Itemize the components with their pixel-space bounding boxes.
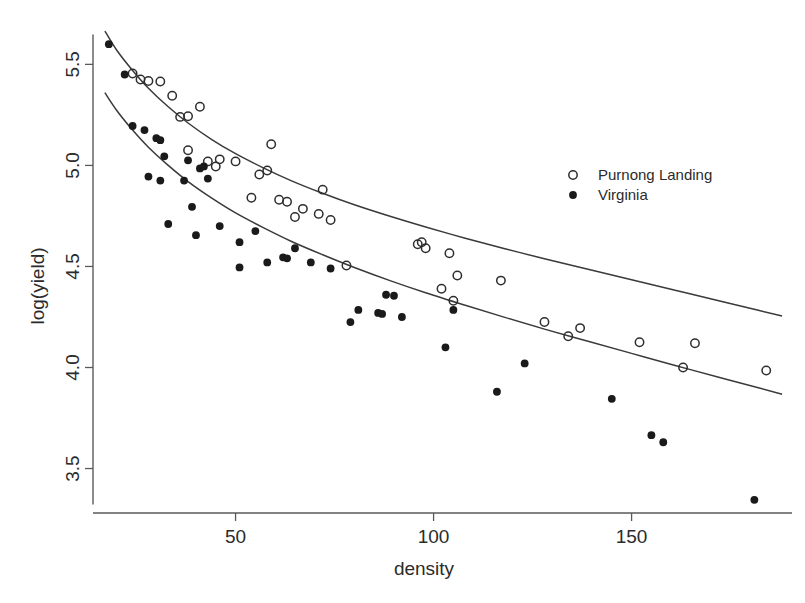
data-point-filled <box>188 203 196 211</box>
x-tick-label: 100 <box>418 526 450 547</box>
data-point-filled <box>521 360 529 368</box>
data-point-filled <box>354 306 362 314</box>
x-axis-ticks: 50100150 <box>225 513 647 547</box>
data-point-filled <box>105 40 113 48</box>
x-axis-title: density <box>394 558 455 579</box>
data-point-open <box>437 284 445 292</box>
data-point-open <box>267 140 275 148</box>
data-point-open <box>635 338 643 346</box>
data-point-open <box>168 92 176 100</box>
data-point-filled <box>216 222 224 230</box>
data-point-filled <box>141 126 149 134</box>
data-point-filled <box>236 238 244 246</box>
fitted-curves-group <box>105 31 782 394</box>
data-point-filled <box>164 220 172 228</box>
data-point-filled <box>180 177 188 185</box>
data-point-filled <box>251 227 259 235</box>
legend-label: Virginia <box>598 186 648 203</box>
data-point-open <box>540 318 548 326</box>
data-point-open <box>184 112 192 120</box>
data-point-open <box>283 198 291 206</box>
data-point-open <box>255 170 263 178</box>
data-point-filled <box>129 122 137 130</box>
data-point-filled <box>608 395 616 403</box>
data-point-filled <box>327 265 335 273</box>
series-purnong-landing <box>128 69 770 374</box>
data-point-filled <box>390 292 398 300</box>
data-point-open <box>445 249 453 257</box>
data-point-filled <box>647 431 655 439</box>
data-point-open <box>315 210 323 218</box>
data-point-open <box>156 77 164 85</box>
data-point-open <box>326 216 334 224</box>
data-point-filled <box>283 254 291 262</box>
data-point-open <box>291 213 299 221</box>
data-point-filled <box>184 156 192 164</box>
data-point-filled <box>236 264 244 272</box>
data-point-filled <box>382 291 390 299</box>
data-point-filled <box>449 306 457 314</box>
data-point-filled <box>156 177 164 185</box>
data-point-open <box>184 146 192 154</box>
data-point-filled <box>347 318 355 326</box>
data-point-filled <box>263 259 271 267</box>
data-point-filled <box>192 231 200 239</box>
data-point-filled <box>378 310 386 318</box>
data-point-open <box>762 366 770 374</box>
data-points-group <box>105 40 771 503</box>
data-point-filled <box>160 152 168 160</box>
legend-marker-open <box>569 171 577 179</box>
y-tick-label: 4.5 <box>62 253 83 279</box>
data-point-filled <box>307 259 315 267</box>
legend: Purnong LandingVirginia <box>569 166 712 203</box>
x-tick-label: 150 <box>616 526 648 547</box>
data-point-open <box>691 339 699 347</box>
x-tick-label: 50 <box>225 526 246 547</box>
data-point-filled <box>750 496 758 504</box>
data-point-filled <box>291 244 299 252</box>
data-point-filled <box>204 175 212 183</box>
y-axis-ticks: 3.54.04.55.05.5 <box>62 51 93 482</box>
scatter-plot-figure: 3.54.04.55.05.5 50100150 density log(yie… <box>0 0 805 603</box>
data-point-open <box>497 276 505 284</box>
y-tick-label: 3.5 <box>62 455 83 481</box>
data-point-open <box>453 271 461 279</box>
data-point-open <box>196 103 204 111</box>
y-tick-label: 4.0 <box>62 354 83 380</box>
plot-canvas: 3.54.04.55.05.5 50100150 density log(yie… <box>0 0 805 603</box>
legend-label: Purnong Landing <box>598 166 712 183</box>
data-point-open <box>421 244 429 252</box>
data-point-filled <box>200 163 208 171</box>
data-point-filled <box>398 313 406 321</box>
data-point-filled <box>121 71 129 79</box>
data-point-open <box>275 196 283 204</box>
data-point-open <box>247 194 255 202</box>
data-point-filled <box>493 388 501 396</box>
data-point-filled <box>659 438 667 446</box>
y-axis-title: log(yield) <box>27 247 48 324</box>
data-point-filled <box>442 343 450 351</box>
legend-marker-filled <box>569 191 577 199</box>
data-point-open <box>576 324 584 332</box>
data-point-open <box>144 77 152 85</box>
y-tick-label: 5.0 <box>62 152 83 178</box>
y-tick-label: 5.5 <box>62 51 83 77</box>
data-point-filled <box>145 173 153 181</box>
data-point-open <box>231 157 239 165</box>
axes-group <box>93 34 792 513</box>
data-point-open <box>216 155 224 163</box>
data-point-filled <box>156 136 164 144</box>
data-point-open <box>299 205 307 213</box>
